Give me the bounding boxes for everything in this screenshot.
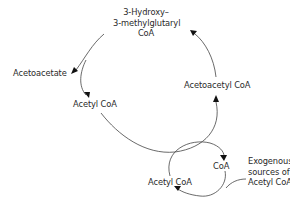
node-exogenous-sources: Exogenous sources of Acetyl CoA [248, 156, 290, 188]
arrow-hmg-to-acetyl-coa [81, 60, 86, 95]
node-acetoacetyl-coa: Acetoacetyl CoA [184, 80, 250, 91]
arrowhead-acetoacetyl-coa [213, 95, 219, 102]
arrow-hmg-to-acetoacetate [76, 34, 104, 70]
arrowhead-acetyl-coa-upper [84, 92, 90, 98]
exogenous-line-3: Acetyl CoA [248, 177, 290, 188]
exogenous-line-2: sources of [248, 167, 290, 178]
hmg-coa-line-2: 3-methylglutaryl [113, 18, 179, 29]
node-acetyl-coa-lower: Acetyl CoA [148, 177, 192, 188]
ketogenesis-diagram: 3-Hydroxy– 3-methylglutaryl CoA Acetoace… [0, 0, 290, 208]
hmg-coa-line-1: 3-Hydroxy– [113, 7, 179, 18]
exogenous-line-1: Exogenous [248, 156, 290, 167]
node-hmg-coa: 3-Hydroxy– 3-methylglutaryl CoA [113, 7, 179, 39]
hmg-coa-line-3: CoA [113, 28, 179, 39]
node-coa: CoA [213, 161, 229, 172]
exogenous-connector [226, 179, 246, 188]
arrow-acetyl-coa-to-acetoacetyl-coa [101, 102, 217, 152]
node-acetyl-coa-upper: Acetyl CoA [73, 99, 117, 110]
arrow-acetoacetyl-to-hmg [195, 34, 216, 77]
node-acetoacetate: Acetoacetate [13, 68, 67, 79]
